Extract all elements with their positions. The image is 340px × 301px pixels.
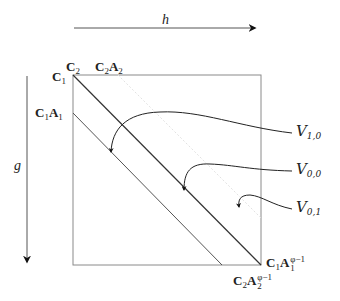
- v01-pointer: [239, 195, 292, 209]
- dotted-diagonal: [118, 75, 261, 218]
- c1a1-a: A: [49, 105, 58, 120]
- c1a1phi-a: A: [280, 255, 289, 270]
- c2-base: C: [66, 59, 75, 74]
- main-diagonal: [73, 75, 261, 265]
- c1-base: C: [52, 69, 61, 84]
- c1a1phi-sub2: 1: [290, 264, 305, 273]
- c1a1phi-c: C: [266, 255, 275, 270]
- label-v10: V1,0: [296, 124, 321, 141]
- c1a1phi-supsub: φ−11: [290, 255, 305, 273]
- c2a2-a: A: [109, 59, 118, 74]
- v10-pointer: [111, 112, 292, 152]
- v10-sub: 1,0: [307, 131, 321, 141]
- label-c1a1-phi: C1Aφ−11: [266, 255, 305, 273]
- h-axis-label: h: [162, 13, 169, 27]
- label-v00: V0,0: [296, 162, 321, 179]
- v00-name: V: [296, 160, 307, 178]
- lower-diagonal: [73, 113, 222, 265]
- label-c2: C2: [66, 60, 80, 76]
- label-c1: C1: [52, 70, 66, 86]
- v00-sub: 0,0: [307, 169, 321, 179]
- v10-name: V: [296, 122, 307, 140]
- c2a2phi-c: C: [233, 273, 242, 288]
- g-axis-label: g: [14, 159, 21, 173]
- c2a2-c: C: [95, 59, 104, 74]
- v00-pointer: [184, 164, 292, 190]
- c2a2phi-sub2: 2: [257, 282, 272, 291]
- c1a1-c: C: [35, 105, 44, 120]
- label-c2a2: C2A2: [95, 60, 123, 76]
- label-v01: V0,1: [296, 200, 321, 217]
- c1-sub: 1: [61, 76, 66, 86]
- v01-name: V: [296, 198, 307, 216]
- c2a2-sub2: 2: [118, 66, 123, 76]
- label-c1a1: C1A1: [35, 106, 63, 122]
- label-c2a2-phi: C2Aφ−12: [233, 273, 272, 291]
- c2a2phi-supsub: φ−12: [257, 273, 272, 291]
- v01-sub: 0,1: [307, 207, 321, 217]
- c1a1-sub2: 1: [58, 112, 63, 122]
- c2a2phi-a: A: [247, 273, 256, 288]
- c2-sub: 2: [75, 66, 80, 76]
